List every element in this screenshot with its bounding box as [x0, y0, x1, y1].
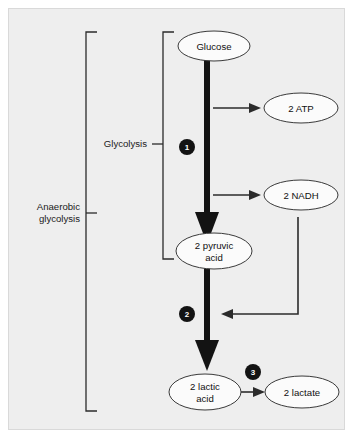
node-2-atp[interactable]: 2 ATP	[264, 93, 338, 123]
node-glucose[interactable]: Glucose	[178, 31, 250, 61]
thick-arrow-glucose-to-pyruvic	[195, 59, 219, 244]
bracket-anaerobic-glycolysis	[86, 32, 97, 411]
step-marker-2-label: 2	[185, 310, 190, 319]
step-marker-3-label: 3	[251, 368, 256, 377]
label-anaerobic-glycolysis-line1: Anaerobic	[37, 201, 80, 212]
figure-root: Glycolysis Anaerobic glycolysis	[0, 0, 353, 438]
node-2-atp-label: 2 ATP	[288, 103, 313, 114]
node-2-lactic-acid-label-line1: 2 lactic	[190, 381, 220, 392]
node-2-lactate[interactable]: 2 lactate	[265, 376, 339, 408]
node-2-lactic-acid-label-line2: acid	[196, 393, 214, 404]
arrow-lactic-to-lactate	[241, 387, 265, 397]
step-marker-1-label: 1	[185, 143, 190, 152]
node-2-pyruvic-acid[interactable]: 2 pyruvic acid	[176, 233, 252, 269]
label-glycolysis: Glycolysis	[104, 138, 147, 149]
node-glucose-label: Glucose	[196, 41, 231, 52]
label-anaerobic-glycolysis-line2: glycolysis	[39, 213, 80, 224]
node-2-nadh-label: 2 NADH	[283, 190, 318, 201]
bracket-glycolysis	[152, 32, 174, 259]
thick-arrow-pyruvic-to-lactic	[195, 265, 219, 371]
step-marker-2[interactable]: 2	[179, 306, 195, 322]
arrow-nadh-feedback	[221, 217, 298, 319]
arrow-to-atp	[213, 103, 261, 113]
anaerobic-glycolysis-diagram: Glycolysis Anaerobic glycolysis	[9, 9, 345, 430]
node-2-lactic-acid[interactable]: 2 lactic acid	[169, 374, 241, 410]
step-marker-1[interactable]: 1	[179, 139, 195, 155]
node-2-nadh[interactable]: 2 NADH	[264, 180, 338, 210]
arrow-to-nadh	[213, 190, 261, 200]
node-2-lactate-label: 2 lactate	[284, 387, 320, 398]
step-marker-3[interactable]: 3	[245, 364, 261, 380]
diagram-panel: Glycolysis Anaerobic glycolysis	[8, 8, 345, 430]
node-2-pyruvic-acid-label-line2: acid	[205, 252, 223, 263]
node-2-pyruvic-acid-label-line1: 2 pyruvic	[195, 240, 234, 251]
